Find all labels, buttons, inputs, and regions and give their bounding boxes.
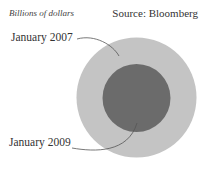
label-january-2007: January 2007 [11, 31, 73, 43]
label-january-2009: January 2009 [9, 136, 71, 148]
circle-january-2009 [103, 64, 171, 132]
